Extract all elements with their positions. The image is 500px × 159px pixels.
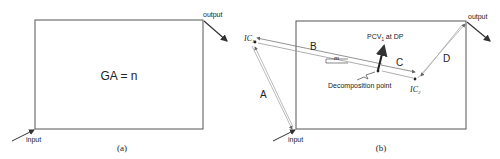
segment-d-line-return: [421, 25, 462, 76]
figure: GA = n input output (a) input output A I…: [0, 0, 500, 159]
segment-c-label: C: [396, 57, 403, 68]
pcv-label: PCV1 at DP: [367, 33, 404, 42]
ic2-label: IC2: [409, 85, 421, 95]
output-arrow-icon: [467, 22, 490, 41]
input-label: input: [26, 136, 41, 144]
input-label: input: [288, 136, 303, 144]
segment-b-line-lower: [258, 43, 378, 68]
ga-label: GA = n: [100, 69, 137, 83]
ic1-label: IC1: [243, 34, 255, 44]
panel-b: input output A IC1 B m C IC2 D PCV1 at D…: [243, 13, 490, 153]
caption-a: (a): [117, 143, 127, 153]
segment-a-line-return: [255, 47, 293, 127]
output-label: output: [468, 13, 488, 21]
output-arrow-icon: [204, 21, 227, 41]
segment-a-label: A: [260, 89, 267, 100]
caption-b: (b): [376, 143, 387, 153]
ic2-point: [414, 78, 417, 81]
decomposition-point: [377, 70, 380, 73]
decomposition-label: Decomposition point: [328, 82, 391, 90]
segment-b-line: [257, 38, 382, 64]
segment-c-line-lower: [382, 71, 413, 78]
output-label: output: [203, 11, 223, 19]
panel-a: GA = n input output (a): [12, 11, 227, 153]
squiggle-pointer-icon: [357, 72, 375, 80]
segment-b-label: B: [310, 41, 317, 52]
pcv-arrow-icon: [378, 46, 384, 70]
segment-d-label: D: [443, 53, 450, 64]
segment-a-line: [252, 46, 292, 129]
slope-label: m: [334, 54, 339, 62]
